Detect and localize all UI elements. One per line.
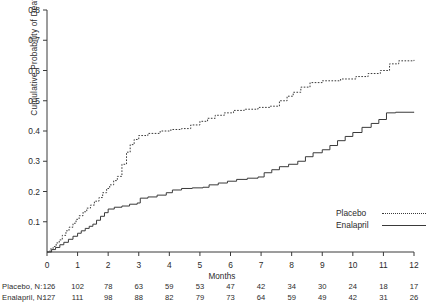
legend-label-placebo: Placebo (336, 208, 382, 218)
y-tick-label: 0.1 (28, 217, 40, 227)
chart-legend: Placebo Enalapril (336, 207, 426, 231)
legend-item-enalapril: Enalapril (336, 219, 426, 231)
risk-count-cell: 111 (64, 293, 92, 302)
x-tick-label: 4 (167, 260, 172, 270)
risk-count-cell: 24 (339, 282, 367, 291)
x-tick-label: 5 (198, 260, 203, 270)
x-tick-label: 10 (348, 260, 358, 270)
x-tick-label: 8 (289, 260, 294, 270)
risk-count-cell: 30 (308, 282, 336, 291)
risk-count-cell: 42 (339, 293, 367, 302)
risk-count-cell: 126 (35, 282, 63, 291)
x-tick-label: 0 (45, 260, 50, 270)
risk-count-cell: 78 (94, 282, 122, 291)
x-tick-label: 1 (75, 260, 80, 270)
x-tick-label: 11 (379, 260, 388, 270)
plot-area: 0.80.70.60.50.40.30.20.10123456789101112 (0, 0, 426, 306)
x-tick-label: 3 (136, 260, 141, 270)
x-tick-label: 6 (228, 260, 233, 270)
x-tick-label: 12 (409, 260, 419, 270)
risk-count-cell: 59 (278, 293, 306, 302)
risk-count-cell: 31 (369, 293, 397, 302)
legend-swatch-placebo-dotted-line (382, 213, 426, 214)
risk-count-cell: 102 (64, 282, 92, 291)
risk-count-cell: 18 (369, 282, 397, 291)
plot-svg: 0.80.70.60.50.40.30.20.10123456789101112 (0, 0, 426, 306)
risk-count-cell: 73 (217, 293, 245, 302)
y-tick-label: 0.3 (28, 156, 40, 166)
x-tick-label: 2 (106, 260, 111, 270)
risk-count-cell: 98 (94, 293, 122, 302)
x-axis-title: Months (209, 272, 236, 281)
legend-swatch-enalapril-solid-line (382, 225, 426, 226)
risk-count-cell: 47 (217, 282, 245, 291)
y-axis-title: Cumulative Probability of Death (30, 0, 39, 135)
risk-count-cell: 59 (155, 282, 183, 291)
risk-count-cell: 49 (308, 293, 336, 302)
risk-count-cell: 127 (35, 293, 63, 302)
y-tick-label: 0.2 (28, 187, 40, 197)
risk-count-cell: 53 (186, 282, 214, 291)
risk-count-cell: 82 (155, 293, 183, 302)
survival-chart-figure: 0.80.70.60.50.40.30.20.10123456789101112… (0, 0, 426, 306)
risk-count-cell: 64 (247, 293, 275, 302)
legend-label-enalapril: Enalapril (336, 220, 382, 230)
legend-item-placebo: Placebo (336, 207, 426, 219)
risk-count-cell: 63 (125, 282, 153, 291)
risk-count-cell: 26 (400, 293, 426, 302)
x-tick-label: 7 (259, 260, 264, 270)
risk-count-cell: 34 (278, 282, 306, 291)
risk-count-cell: 79 (186, 293, 214, 302)
risk-count-cell: 42 (247, 282, 275, 291)
x-tick-label: 9 (320, 260, 325, 270)
risk-count-cell: 88 (125, 293, 153, 302)
risk-count-cell: 17 (400, 282, 426, 291)
